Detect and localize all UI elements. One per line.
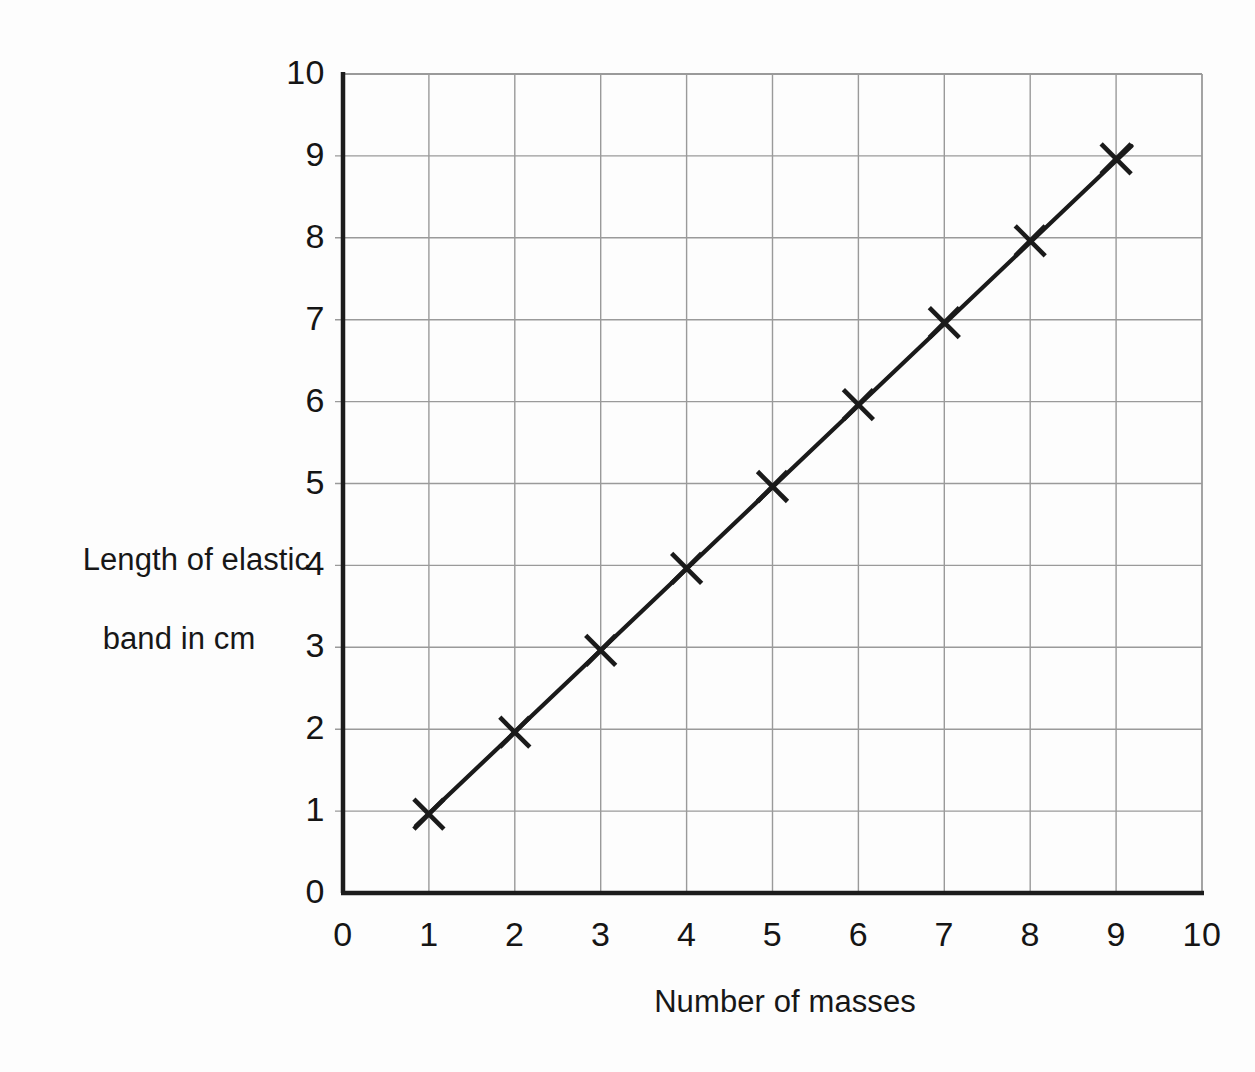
graph-figure: Length of elastic band in cm Number of m… bbox=[0, 0, 1255, 1072]
plot-area bbox=[0, 0, 1255, 1072]
